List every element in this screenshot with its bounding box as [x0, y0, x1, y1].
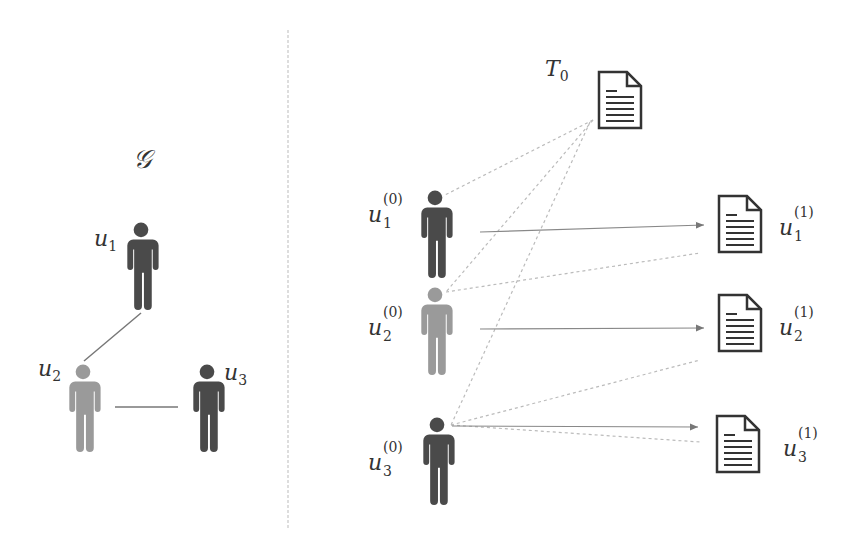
node-label-u3: u3 — [224, 362, 247, 387]
document-icon-u3-1 — [717, 416, 759, 472]
graph-label: 𝒢 — [133, 146, 152, 172]
diagram-canvas — [0, 0, 867, 554]
document-icon-u2-1 — [719, 295, 761, 351]
person-icon-u2-0 — [421, 287, 452, 375]
person-icon-u3-0 — [423, 417, 454, 505]
person-icon-u1-0 — [421, 190, 452, 278]
output-label-u2: u 2 (1) — [779, 311, 829, 347]
node-label-u2: u2 — [38, 358, 61, 383]
document-icon-u1-1 — [719, 196, 761, 252]
edge-u1-u2 — [84, 313, 141, 361]
document-icon-t0 — [599, 72, 641, 128]
output-label-u1: u 1 (1) — [779, 211, 829, 247]
output-label-u3: u 3 (1) — [783, 432, 833, 468]
template-links — [443, 120, 700, 442]
person-icon-u2 — [69, 364, 100, 452]
node-label-u1: u1 — [94, 228, 117, 253]
person-icon-u3 — [193, 364, 224, 452]
input-label-u1: u 1 (0) — [368, 198, 418, 234]
input-label-u3: u 3 (0) — [368, 446, 418, 482]
input-label-u2: u 2 (0) — [368, 311, 418, 347]
person-icon-u1 — [127, 222, 158, 310]
update-arrows — [452, 225, 704, 427]
template-label-t0: T0 — [545, 58, 569, 83]
